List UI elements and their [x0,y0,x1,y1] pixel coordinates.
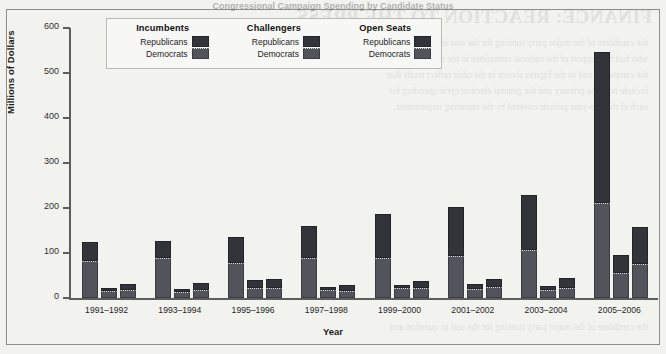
legend-entry[interactable]: Democrats [228,48,320,59]
bar-challengers[interactable] [467,284,483,298]
x-axis-title: Year [7,326,659,337]
bar-incumbents[interactable] [82,242,98,298]
legend-column-open-seats: Open SeatsRepublicansDemocrats [330,19,441,68]
bar-incumbents[interactable] [155,241,171,298]
y-axis-title: Millions of Dollars [5,30,16,114]
x-tick-label: 2005–2006 [583,305,656,315]
bar-open-seats[interactable] [413,281,429,298]
bar-open-seats[interactable] [632,227,648,298]
y-tick-mark [63,207,70,209]
legend-entry[interactable]: Democrats [339,48,431,59]
legend-entry[interactable]: Democrats [117,48,209,59]
bar-segment-democrats [320,290,336,298]
y-tick-label: 500 [29,66,59,76]
bar-segment-republicans [448,207,464,257]
x-tick-label: 1991–1992 [70,305,143,315]
bar-incumbents[interactable] [375,214,391,298]
bar-challengers[interactable] [320,287,336,298]
legend-column-header: Open Seats [359,23,411,33]
x-tick-label: 1993–1994 [143,305,216,315]
bar-incumbents[interactable] [521,195,537,299]
legend-column-challengers: ChallengersRepublicansDemocrats [218,19,329,68]
bar-segment-republicans [82,242,98,261]
bar-segment-republicans [632,227,648,264]
x-axis-line [69,298,658,300]
bar-open-seats[interactable] [266,279,282,298]
y-tick-label: 400 [29,111,59,121]
bar-segment-democrats [448,256,464,298]
bar-segment-republicans [247,280,263,288]
bar-segment-democrats [193,290,209,298]
bar-group [594,28,648,298]
bar-segment-democrats [120,290,136,298]
bar-segment-republicans [301,226,317,258]
bar-open-seats[interactable] [120,284,136,298]
bar-group [448,28,502,298]
bar-segment-democrats [247,288,263,298]
bar-incumbents[interactable] [594,52,610,298]
bar-challengers[interactable] [101,288,117,298]
bar-segment-democrats [559,288,575,298]
bar-challengers[interactable] [247,280,263,298]
bar-segment-republicans [228,237,244,263]
bar-open-seats[interactable] [193,283,209,298]
y-tick-label: 100 [29,246,59,256]
republicans-swatch [414,36,431,47]
democrats-swatch [303,48,320,59]
bar-open-seats[interactable] [559,278,575,298]
bar-challengers[interactable] [394,285,410,298]
bar-incumbents[interactable] [228,237,244,298]
democrats-swatch [192,48,209,59]
bar-incumbents[interactable] [301,226,317,298]
bar-segment-democrats [540,290,556,298]
bar-segment-republicans [486,279,502,288]
bar-segment-democrats [394,288,410,298]
bar-open-seats[interactable] [339,285,355,298]
legend-entry-label: Democrats [146,49,188,59]
bar-segment-democrats [632,264,648,298]
y-tick-label: 300 [29,156,59,166]
y-tick-mark [63,252,70,254]
chart-title: Congressional Campaign Spending by Candi… [7,1,659,11]
legend-entry-label: Republicans [363,37,410,47]
x-tick-label: 2003–2004 [510,305,583,315]
bar-segment-republicans [375,214,391,258]
bar-incumbents[interactable] [448,207,464,298]
bar-challengers[interactable] [613,255,629,298]
x-tick-label: 1995–1996 [217,305,290,315]
democrats-swatch [414,48,431,59]
bar-segment-democrats [266,288,282,298]
bar-challengers[interactable] [174,289,190,298]
legend-entry-label: Democrats [369,49,411,59]
legend-entry[interactable]: Republicans [117,36,209,47]
bar-segment-republicans [613,255,629,273]
bar-segment-democrats [467,289,483,298]
bar-group [521,28,575,298]
chart-legend: IncumbentsRepublicansDemocratsChallenger… [106,18,442,69]
bar-segment-democrats [301,258,317,298]
bar-segment-republicans [155,241,171,258]
y-tick-label: 0 [29,291,59,301]
republicans-swatch [192,36,209,47]
bar-segment-democrats [101,291,117,298]
bar-segment-republicans [266,279,282,288]
bar-segment-republicans [559,278,575,288]
legend-column-incumbents: IncumbentsRepublicansDemocrats [107,19,218,68]
legend-column-header: Incumbents [136,23,189,33]
bar-challengers[interactable] [540,286,556,298]
legend-entry[interactable]: Republicans [228,36,320,47]
y-tick-mark [63,27,70,29]
x-tick-label: 1997–1998 [290,305,363,315]
y-tick-label: 200 [29,201,59,211]
chart-figure: Congressional Campaign Spending by Candi… [6,9,660,345]
legend-entry-label: Republicans [252,37,299,47]
bar-segment-democrats [613,273,629,298]
scanned-page-background: FINANCE: REACTION TO THE PRESS the candi… [0,0,666,354]
bar-segment-democrats [174,292,190,298]
bar-segment-republicans [413,281,429,288]
y-tick-mark [63,72,70,74]
bar-segment-republicans [521,195,537,251]
bar-segment-democrats [413,288,429,298]
legend-entry[interactable]: Republicans [339,36,431,47]
bar-open-seats[interactable] [486,279,502,298]
